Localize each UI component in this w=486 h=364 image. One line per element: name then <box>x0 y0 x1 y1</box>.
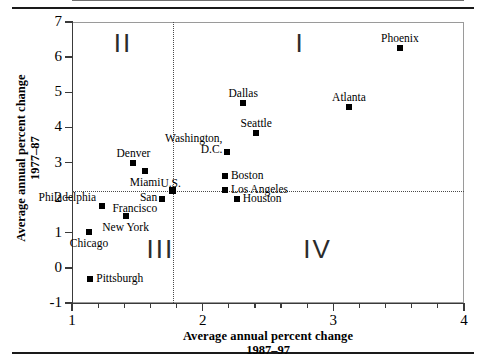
data-point-chicago[interactable] <box>86 229 92 235</box>
x-minor-tick <box>150 303 151 308</box>
x-tick-label-3: 3 <box>318 313 348 328</box>
x-minor-tick <box>228 303 229 308</box>
x-axis-line <box>71 303 465 304</box>
data-label-washington-d-c: Washington,D.C. <box>165 133 223 156</box>
x-minor-tick <box>176 303 177 308</box>
x-tick-label-4: 4 <box>449 313 479 328</box>
data-label-san-francisco: SanFrancisco <box>112 192 157 215</box>
x-tick-4 <box>463 303 464 311</box>
scatter-chart-figure: 76543210-11234 Average annual percent ch… <box>0 0 486 364</box>
y-tick-4 <box>65 127 73 128</box>
data-point-phoenix[interactable] <box>397 45 403 51</box>
y-axis-title-line2: 1977–87 <box>28 18 43 298</box>
data-point-seattle[interactable] <box>253 130 259 136</box>
data-label-houston: Houston <box>243 192 282 204</box>
data-point-los-angeles[interactable] <box>222 187 228 193</box>
data-label-dallas: Dallas <box>228 87 257 99</box>
x-axis-title-line1: Average annual percent change <box>72 329 464 344</box>
data-label-pittsburgh: Pittsburgh <box>96 272 143 284</box>
data-point-denver[interactable] <box>130 160 136 166</box>
x-minor-tick <box>124 303 125 308</box>
data-label-seattle: Seattle <box>241 117 272 129</box>
quadrant-label-iii: III <box>146 236 174 262</box>
x-tick-label-1: 1 <box>57 313 87 328</box>
data-label-chicago: Chicago <box>70 237 108 249</box>
x-tick-3 <box>333 303 334 311</box>
y-tick-0 <box>65 267 73 268</box>
data-point-boston[interactable] <box>222 173 228 179</box>
x-tick-label-2: 2 <box>188 313 218 328</box>
data-point-pittsburgh[interactable] <box>87 276 93 282</box>
y-tick-7 <box>65 21 73 22</box>
x-minor-tick <box>437 303 438 308</box>
data-point-atlanta[interactable] <box>346 104 352 110</box>
data-label-u-s: U.S. <box>160 177 180 189</box>
data-label-new-york: New York <box>102 221 149 233</box>
quadrant-label-iv: IV <box>303 236 332 262</box>
figure-top-rule <box>12 7 474 9</box>
data-label-philadelphia: Philadelphia <box>39 191 97 203</box>
data-label-miami: Miami <box>130 176 161 188</box>
data-point-philadelphia[interactable] <box>99 203 105 209</box>
quadrant-label-i: I <box>295 30 304 56</box>
x-minor-tick <box>411 303 412 308</box>
x-minor-tick <box>359 303 360 308</box>
x-minor-tick <box>385 303 386 308</box>
data-label-denver: Denver <box>116 147 150 159</box>
x-minor-tick <box>307 303 308 308</box>
x-axis-title-line2: 1987–97 <box>72 343 464 358</box>
quadrant-label-ii: II <box>114 30 132 56</box>
x-minor-tick <box>254 303 255 308</box>
x-minor-tick <box>280 303 281 308</box>
x-tick-2 <box>202 303 203 311</box>
data-point-washington-d-c[interactable] <box>224 149 230 155</box>
y-tick-6 <box>65 56 73 57</box>
data-label-atlanta: Atlanta <box>332 91 366 103</box>
y-tick-5 <box>65 92 73 93</box>
data-point-houston[interactable] <box>234 196 240 202</box>
data-point-san-francisco[interactable] <box>159 196 165 202</box>
y-tick-1 <box>65 232 73 233</box>
data-point-miami[interactable] <box>142 168 148 174</box>
x-tick-1 <box>71 303 72 311</box>
data-point-dallas[interactable] <box>240 100 246 106</box>
y-axis-title-line1: Average annual percent change <box>14 18 29 298</box>
x-minor-tick <box>98 303 99 308</box>
data-label-boston: Boston <box>231 169 264 181</box>
y-tick-3 <box>65 162 73 163</box>
data-label-phoenix: Phoenix <box>381 32 419 44</box>
data-point-new-york[interactable] <box>123 213 129 219</box>
zero-baseline <box>72 0 464 1</box>
